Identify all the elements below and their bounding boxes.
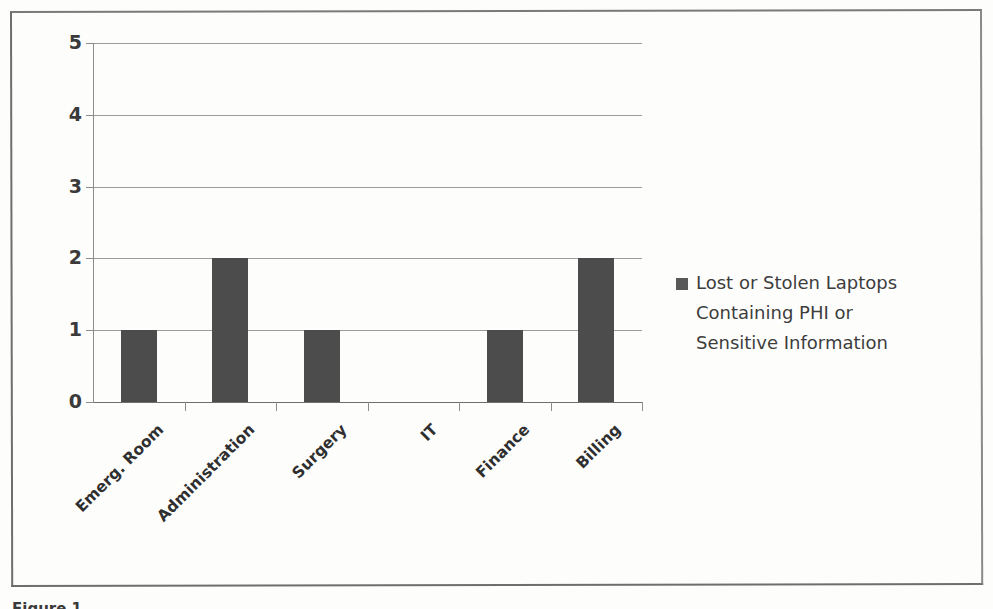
x-tick-5 [642, 402, 643, 411]
x-axis-label-finance: Finance [379, 421, 533, 575]
x-axis-label-emerg-room: Emerg. Room [13, 421, 167, 575]
y-tick-1 [86, 330, 94, 331]
x-axis-label-surgery: Surgery [196, 421, 350, 575]
gridline-5 [93, 43, 642, 44]
y-tick-4 [86, 115, 94, 116]
plot-area [93, 43, 642, 402]
y-tick-2 [86, 258, 94, 259]
x-tick-4 [551, 402, 552, 411]
bar-chart: 012345 Emerg. RoomAdministrationSurgeryI… [0, 0, 993, 609]
y-axis-label-5: 5 [36, 31, 82, 53]
legend-label-line-1: Lost or Stolen Laptops [696, 268, 958, 298]
gridline-4 [93, 115, 642, 116]
x-tick-3 [459, 402, 460, 411]
bar-billing [578, 258, 614, 402]
x-axis-label-billing: Billing [470, 421, 624, 575]
y-tick-3 [86, 187, 94, 188]
x-tick-2 [368, 402, 369, 411]
x-axis-label-administration: Administration [104, 421, 258, 575]
x-tick-0 [185, 402, 186, 411]
x-axis-label-it: IT [287, 421, 441, 575]
figure-caption-fragment: Figure 1. [12, 596, 88, 609]
legend-label-line-2: Containing PHI or [696, 298, 958, 328]
gridline-2 [93, 258, 642, 259]
y-axis-label-1: 1 [36, 318, 82, 340]
y-axis-label-2: 2 [36, 246, 82, 268]
y-axis-spine [93, 43, 94, 403]
y-tick-5 [86, 43, 94, 44]
x-tick-1 [276, 402, 277, 411]
gridline-3 [93, 187, 642, 188]
y-tick-0 [86, 402, 94, 403]
y-axis-label-4: 4 [36, 103, 82, 125]
bar-administration [212, 258, 248, 402]
bar-finance [487, 330, 523, 402]
y-axis-label-3: 3 [36, 175, 82, 197]
legend-label-line-3: Sensitive Information [696, 328, 958, 358]
legend-swatch-lost-stolen-laptops [676, 278, 688, 290]
y-axis-label-0: 0 [36, 390, 82, 412]
bar-emerg-room [121, 330, 157, 402]
bar-surgery [304, 330, 340, 402]
legend-label: Lost or Stolen Laptops Containing PHI or… [696, 268, 958, 358]
gridline-1 [93, 330, 642, 331]
